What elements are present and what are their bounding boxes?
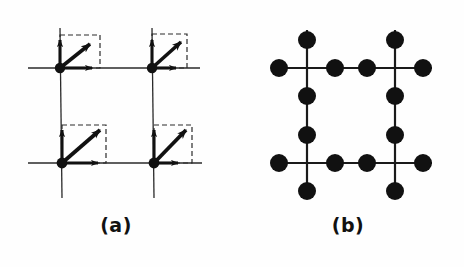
panel-b-caption: (b)	[232, 214, 464, 236]
satellite-dot-up	[298, 31, 316, 49]
figure-root: (a)	[0, 0, 464, 267]
satellite-dot-right	[414, 154, 432, 172]
vector-cluster-bottom-right	[149, 125, 192, 168]
satellite-dot-right	[326, 59, 344, 77]
satellite-dot-left	[358, 59, 376, 77]
satellite-dot-left	[270, 59, 288, 77]
vector-cluster-top-right	[147, 34, 187, 73]
arrow-diagonal	[62, 130, 100, 163]
panel-a-diagram	[0, 0, 232, 215]
satellite-dot-right	[326, 154, 344, 172]
satellite-dot-left	[358, 154, 376, 172]
arrow-diagonal	[154, 130, 186, 163]
lattice-vertex-dot	[57, 158, 68, 169]
panel-a-caption: (a)	[0, 214, 232, 236]
arrow-diagonal	[152, 42, 181, 68]
satellite-dot-down	[386, 87, 404, 105]
satellite-dot-right	[414, 59, 432, 77]
lattice-lines-b	[272, 30, 432, 196]
lattice-vertex-dot	[149, 158, 160, 169]
vector-cluster-bottom-left	[57, 125, 106, 168]
lattice-vertex-dot	[147, 63, 157, 73]
panel-a: (a)	[0, 0, 232, 267]
satellite-dot-down	[298, 182, 316, 200]
panel-b-diagram	[232, 0, 464, 215]
satellite-dot-down	[386, 182, 404, 200]
satellite-dot-up	[386, 31, 404, 49]
lattice-lines-a	[28, 28, 202, 198]
satellite-dot-up	[386, 126, 404, 144]
satellite-dot-down	[298, 87, 316, 105]
arrow-diagonal	[60, 44, 90, 68]
lattice-vertex-dot	[55, 63, 65, 73]
satellite-dot-up	[298, 126, 316, 144]
satellite-dot-left	[270, 154, 288, 172]
panel-b: (b)	[232, 0, 464, 267]
